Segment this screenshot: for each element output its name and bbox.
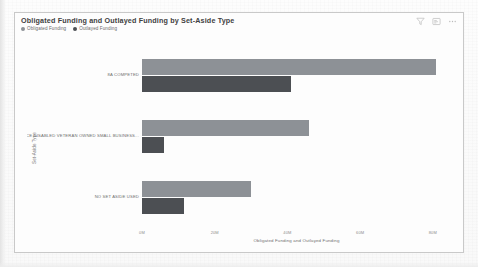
- chart-card[interactable]: Obligated Funding and Outlayed Funding b…: [14, 12, 464, 253]
- legend-swatch-outlayed: [73, 27, 77, 31]
- bar-group: [142, 45, 451, 106]
- y-axis-tick-label[interactable]: NO SET ASIDE USED: [27, 167, 142, 228]
- bars-container: [142, 45, 451, 228]
- chart-header-actions: [416, 17, 457, 26]
- page-edge-bottom: [0, 262, 478, 267]
- legend-item-outlayed-funding[interactable]: Outlayed Funding: [73, 26, 117, 31]
- chart-title: Obligated Funding and Outlayed Funding b…: [21, 16, 235, 25]
- bar-obligated[interactable]: [142, 181, 251, 197]
- x-axis-ticks: 0M20M40M60M80M: [142, 230, 451, 238]
- focus-mode-icon[interactable]: [432, 17, 441, 26]
- x-axis-tick-label: 80M: [429, 230, 437, 235]
- y-axis-tick-label[interactable]: 8A COMPETED: [27, 45, 142, 106]
- y-axis-category-labels: 8A COMPETED SERVICE DISABLED VETERAN OWN…: [27, 45, 142, 228]
- bar-group: [142, 106, 451, 167]
- bar-group: [142, 167, 451, 228]
- bar-obligated[interactable]: [142, 59, 436, 75]
- y-axis-tick-label[interactable]: SERVICE DISABLED VETERAN OWNED SMALL BUS…: [27, 106, 142, 167]
- more-options-icon[interactable]: [448, 17, 457, 26]
- legend-label-obligated: Obligated Funding: [27, 26, 66, 31]
- filter-icon[interactable]: [416, 17, 425, 26]
- x-axis-title: Obligated Funding and Outlayed Funding: [142, 238, 451, 243]
- bar-obligated[interactable]: [142, 120, 309, 136]
- bar-outlayed[interactable]: [142, 198, 184, 214]
- bar-outlayed[interactable]: [142, 76, 291, 92]
- legend-swatch-obligated: [21, 27, 25, 31]
- legend-item-obligated-funding[interactable]: Obligated Funding: [21, 26, 66, 31]
- x-axis-tick-label: 40M: [283, 230, 291, 235]
- chart-plot-area: Set-Aside Type 8A COMPETED SERVICE DISAB…: [15, 43, 463, 252]
- bar-outlayed[interactable]: [142, 137, 164, 153]
- x-axis: 0M20M40M60M80M Obligated Funding and Out…: [142, 228, 451, 252]
- x-axis-tick-label: 0M: [139, 230, 145, 235]
- page-edge-left: [0, 0, 6, 267]
- x-axis-tick-label: 20M: [211, 230, 219, 235]
- legend-label-outlayed: Outlayed Funding: [79, 26, 117, 31]
- chart-legend: Obligated Funding Outlayed Funding: [21, 26, 117, 31]
- bar-groups: [142, 45, 451, 228]
- chart-card-header: Obligated Funding and Outlayed Funding b…: [15, 13, 463, 43]
- x-axis-tick-label: 60M: [356, 230, 364, 235]
